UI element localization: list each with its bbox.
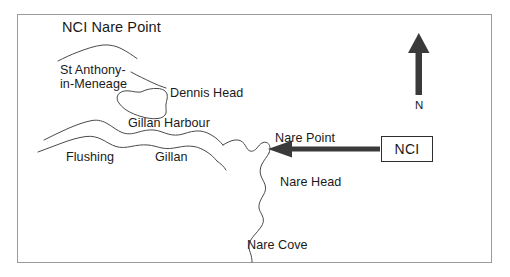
map-figure: NCI Nare Point St Anthony- in-Meneage De…	[0, 0, 510, 277]
label-st-anthony-in-meneage: St Anthony- in-Meneage	[60, 63, 127, 91]
nci-station-box: NCI	[381, 136, 433, 162]
nci-station-box-label: NCI	[394, 142, 419, 156]
label-nare-cove: Nare Cove	[247, 238, 308, 252]
compass-north-label: N	[415, 99, 423, 112]
label-gillan-harbour: Gillan Harbour	[128, 116, 210, 130]
label-gillan: Gillan	[155, 150, 188, 164]
label-flushing: Flushing	[66, 150, 114, 164]
label-dennis-head: Dennis Head	[170, 86, 243, 100]
map-title: NCI Nare Point	[62, 19, 161, 35]
label-nare-point: Nare Point	[275, 131, 335, 145]
label-nare-head: Nare Head	[280, 175, 341, 189]
